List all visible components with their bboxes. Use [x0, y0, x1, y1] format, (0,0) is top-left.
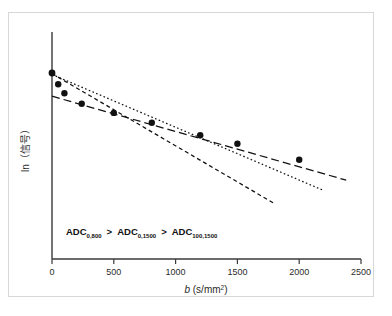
data-point [49, 70, 56, 77]
annot-gt-2: > [161, 226, 167, 237]
annot-adc3-sub: 100,1500 [192, 233, 218, 239]
x-tick-label-0: 0 [49, 267, 54, 277]
annot-adc2-sub: 0,1500 [138, 233, 157, 239]
data-point-group [49, 70, 303, 163]
data-point [79, 101, 85, 107]
x-tick-label-500: 500 [106, 267, 121, 277]
data-point [149, 120, 155, 126]
annot-adc1-base: ADC [66, 226, 87, 237]
data-point [55, 81, 61, 87]
x-tick-label-2000: 2000 [289, 267, 309, 277]
data-point [61, 90, 67, 96]
axes-group: 0 500 1000 1500 2000 2500 b (s/mm2) ln（信… [20, 32, 371, 295]
fit-line-adc-0-800 [52, 74, 275, 204]
x-axis-ticks [52, 259, 361, 264]
y-axis-title: ln（信号） [20, 124, 31, 172]
data-point [111, 110, 117, 116]
figure-root: 0 500 1000 1500 2000 2500 b (s/mm2) ln（信… [0, 0, 392, 316]
svg-text:ADC0,800>ADC0,1500>ADC100,1500: ADC0,800>ADC0,1500>ADC100,1500 [66, 226, 218, 239]
data-point [197, 132, 203, 138]
annot-adc3-base: ADC [172, 226, 193, 237]
x-tick-label-1000: 1000 [166, 267, 186, 277]
x-axis-title-units: (s/mm [190, 284, 221, 295]
data-point [234, 141, 240, 147]
x-axis-title-close: ) [224, 284, 227, 295]
chart-canvas: 0 500 1000 1500 2000 2500 b (s/mm2) ln（信… [0, 0, 392, 316]
annot-adc1-sub: 0,800 [87, 233, 103, 239]
x-axis-title: b (s/mm2) [184, 284, 227, 296]
adc-inequality-annotation: ADC0,800>ADC0,1500>ADC100,1500 [66, 226, 218, 239]
annot-adc2-base: ADC [117, 226, 138, 237]
fit-line-adc-0-1500 [52, 75, 324, 191]
x-axis-tick-labels: 0 500 1000 1500 2000 2500 [49, 267, 371, 277]
annot-gt-1: > [107, 226, 113, 237]
data-point [296, 157, 302, 163]
x-tick-label-1500: 1500 [227, 267, 247, 277]
x-tick-label-2500: 2500 [351, 267, 371, 277]
svg-text:b (s/mm2): b (s/mm2) [184, 284, 227, 296]
